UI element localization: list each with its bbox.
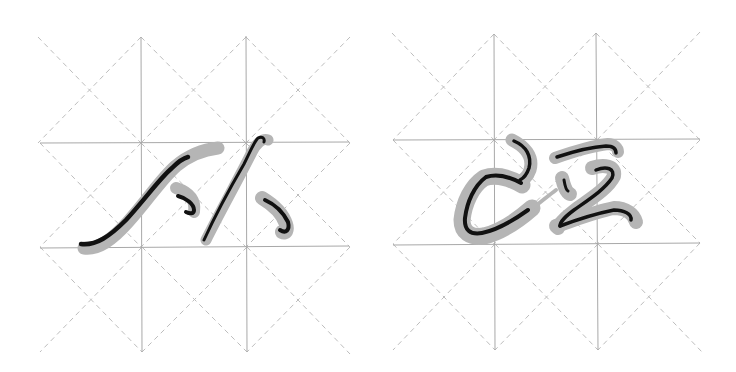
stroke-cores [465,141,631,233]
right-calligraphy-characters [462,140,636,236]
left-calligraphy-characters [81,137,289,248]
right-practice-grid [392,32,702,352]
calligraphy-canvas [0,0,736,372]
right-grid-diagonals [392,32,702,352]
stroke-halos [462,140,636,236]
